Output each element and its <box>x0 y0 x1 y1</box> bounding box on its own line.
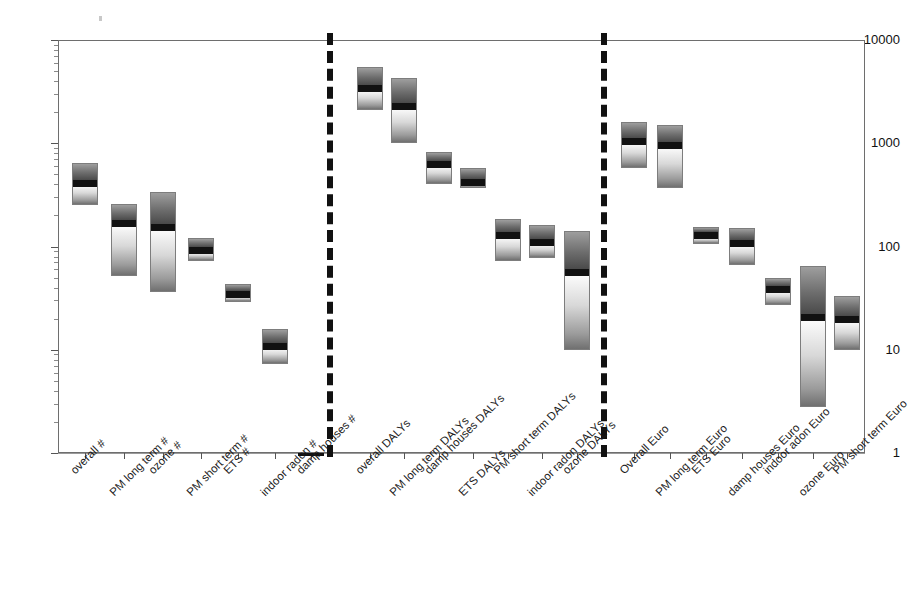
range-bar <box>150 192 176 293</box>
range-bar <box>262 329 288 364</box>
bar-median-line <box>530 239 554 246</box>
range-bar <box>657 125 683 188</box>
bar-lower-segment <box>496 237 520 259</box>
x-tick-mark <box>404 453 405 459</box>
x-tick-mark <box>124 453 125 459</box>
bar-upper-segment <box>658 126 682 142</box>
bar-upper-segment <box>766 279 790 287</box>
range-bar <box>693 227 719 244</box>
bar-median-line <box>189 247 213 254</box>
bar-lower-segment <box>835 321 859 349</box>
range-bar <box>834 296 860 350</box>
bar-lower-segment <box>658 147 682 187</box>
bar-lower-segment <box>112 225 136 275</box>
x-tick-mark <box>742 453 743 459</box>
bar-median-line <box>73 180 97 187</box>
bar-median-line <box>392 103 416 110</box>
bar-median-line <box>112 220 136 227</box>
bar-median-line <box>151 224 175 231</box>
range-bar <box>800 266 826 407</box>
y-tick-mark <box>51 143 58 144</box>
bar-lower-segment <box>427 166 451 184</box>
bar-upper-segment <box>530 226 554 238</box>
range-bar <box>188 238 214 261</box>
bar-upper-segment <box>622 123 646 138</box>
range-bar <box>426 152 452 185</box>
x-tick-mark <box>201 453 202 459</box>
bar-upper-segment <box>73 164 97 179</box>
bar-median-line <box>835 316 859 323</box>
bar-upper-segment <box>112 205 136 221</box>
bar-median-line <box>801 314 825 321</box>
range-bar <box>495 219 521 261</box>
x-tick-mark <box>473 453 474 459</box>
bar-lower-segment <box>565 274 589 349</box>
bar-lower-segment <box>801 319 825 406</box>
bar-upper-segment <box>358 68 382 85</box>
bar-upper-segment <box>263 330 287 343</box>
group-separator-1 <box>327 33 333 457</box>
bar-median-line <box>694 232 718 239</box>
range-bar <box>564 231 590 349</box>
bar-lower-segment <box>358 90 382 109</box>
bar-lower-segment <box>730 245 754 264</box>
range-bar <box>225 284 251 302</box>
bar-median-line <box>358 85 382 92</box>
bar-median-line <box>766 286 790 293</box>
bar-upper-segment <box>392 79 416 104</box>
bar-lower-segment <box>263 348 287 363</box>
bar-median-line <box>263 343 287 350</box>
scan-artifact-speck <box>99 16 102 21</box>
bar-upper-segment <box>835 297 859 316</box>
x-tick-mark <box>670 453 671 459</box>
x-tick-mark <box>813 453 814 459</box>
bar-median-line <box>622 138 646 145</box>
bar-median-line <box>565 269 589 276</box>
bar-median-line <box>461 179 485 186</box>
range-bar <box>111 204 137 276</box>
range-bar <box>460 168 486 188</box>
group-separator-2 <box>601 33 607 457</box>
gridline <box>58 453 865 454</box>
range-bar <box>765 278 791 306</box>
bar-upper-segment <box>189 239 213 247</box>
bar-upper-segment <box>801 267 825 314</box>
range-bar <box>357 67 383 110</box>
bar-upper-segment <box>496 220 520 232</box>
bar-median-line <box>496 232 520 239</box>
range-bar <box>529 225 555 257</box>
range-bar <box>621 122 647 168</box>
bar-lower-segment <box>392 108 416 142</box>
range-bar <box>72 163 98 205</box>
bar-upper-segment <box>151 193 175 225</box>
bar-upper-segment <box>565 232 589 269</box>
y-tick-mark <box>51 453 58 454</box>
bar-lower-segment <box>73 185 97 205</box>
range-bar <box>391 78 417 143</box>
y-tick-mark <box>51 40 58 41</box>
bar-median-line <box>730 240 754 247</box>
y-tick-mark <box>51 350 58 351</box>
x-tick-mark <box>275 453 276 459</box>
y-tick-mark <box>51 247 58 248</box>
range-bar <box>729 228 755 265</box>
bar-median-line <box>658 142 682 149</box>
bar-median-line <box>427 161 451 168</box>
bar-upper-segment <box>730 229 754 239</box>
bar-lower-segment <box>151 229 175 291</box>
bar-upper-segment <box>427 153 451 161</box>
bar-upper-segment <box>461 169 485 179</box>
bar-lower-segment <box>622 143 646 167</box>
bar-median-line <box>226 291 250 298</box>
x-tick-mark <box>542 453 543 459</box>
